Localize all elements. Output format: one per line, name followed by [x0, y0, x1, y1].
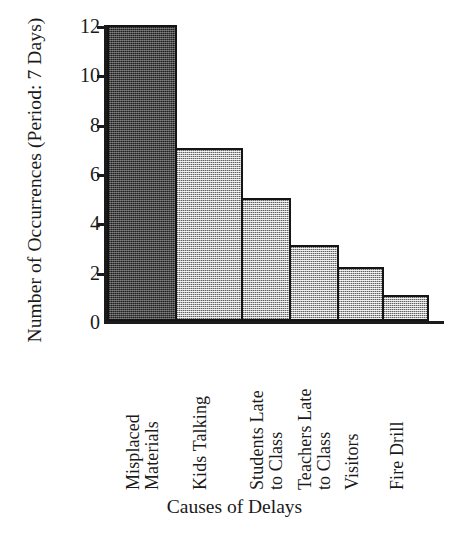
y-axis-tick-label: 8 [60, 115, 100, 135]
x-axis-title: Causes of Delays [0, 496, 469, 518]
y-axis-tick-mark [97, 223, 105, 226]
y-axis-tick-label: 12 [60, 16, 100, 36]
bar [382, 295, 429, 321]
bar [289, 245, 339, 321]
x-axis-category-label: Visitors [343, 330, 362, 490]
y-axis-title: Number of Occurrences (Period: 7 Days) [17, 15, 53, 345]
y-axis-tick-labels: 024681012 [60, 0, 100, 535]
y-axis-tick-mark [97, 75, 105, 78]
x-axis-category-label: Kids Talking [191, 330, 210, 490]
plot-area [104, 25, 444, 324]
y-axis-tick-mark [97, 125, 105, 128]
x-axis-category-label: Misplaced Materials [124, 330, 161, 490]
bar [337, 267, 384, 321]
y-axis-tick-label: 6 [60, 164, 100, 184]
y-axis-tick-mark [97, 174, 105, 177]
y-axis-tick-mark [97, 273, 105, 276]
x-axis-category-label: Fire Drill [388, 330, 407, 490]
y-axis-tick-mark [97, 26, 105, 29]
y-axis-tick-label: 0 [60, 312, 100, 332]
pareto-bar-chart: Number of Occurrences (Period: 7 Days) 0… [0, 0, 469, 535]
x-axis-category-label: Students Late to Class [248, 330, 285, 490]
y-axis-tick-label: 4 [60, 213, 100, 233]
y-axis-tick-label: 10 [60, 65, 100, 85]
x-axis-category-label: Teachers Late to Class [296, 330, 333, 490]
bar [175, 148, 243, 321]
bars-layer [107, 25, 444, 321]
x-axis-category-labels: Misplaced MaterialsKids TalkingStudents … [104, 330, 444, 490]
y-axis-tick-label: 2 [60, 263, 100, 283]
x-axis-line [104, 321, 444, 324]
bar [107, 25, 177, 321]
bar [241, 198, 291, 321]
